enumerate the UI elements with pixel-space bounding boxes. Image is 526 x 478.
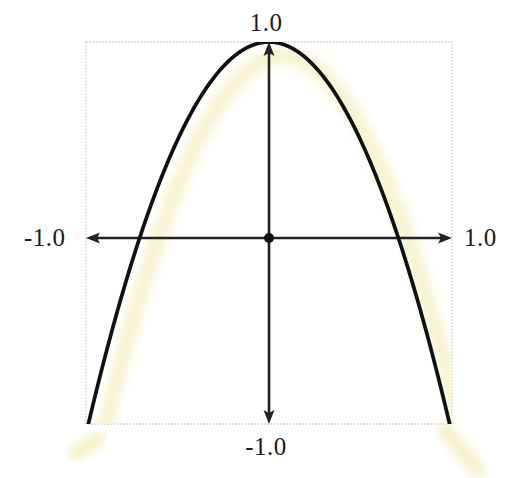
parabola-figure: 1.0 -1.0 -1.0 1.0 [0, 0, 526, 478]
curve-glow-group [100, 56, 466, 448]
parabola-glow [100, 56, 466, 448]
plot-canvas [0, 0, 526, 478]
x-axis-min-label: -1.0 [24, 225, 66, 250]
y-axis-min-label: -1.0 [3, 434, 526, 459]
x-axis-max-label: 1.0 [464, 225, 497, 250]
y-axis-max-label: 1.0 [3, 10, 526, 35]
origin-dot [264, 233, 274, 243]
